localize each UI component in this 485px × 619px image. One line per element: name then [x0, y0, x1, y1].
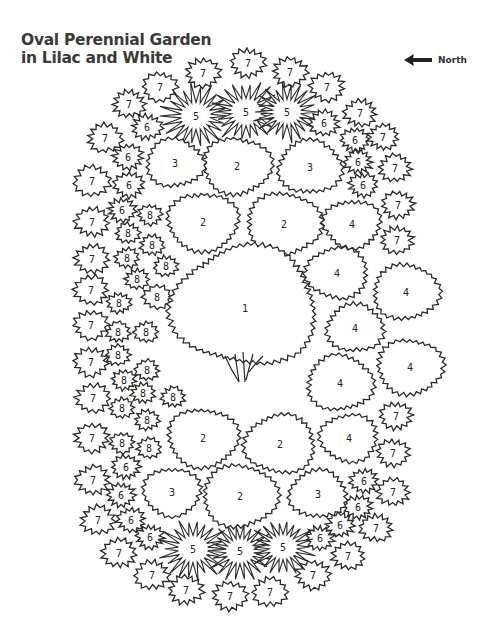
plant-number-label: 8 [154, 292, 160, 303]
plant-7: 7 [376, 439, 410, 468]
plant-6: 6 [111, 144, 143, 171]
plant-number-label: 6 [361, 476, 367, 487]
plant-3: 3 [142, 469, 203, 519]
plant-number-label: 7 [373, 523, 379, 534]
plant-number-label: 8 [121, 375, 127, 386]
plant-number-label: 8 [143, 327, 149, 338]
plant-6: 6 [343, 149, 373, 174]
plant-8: 8 [114, 247, 140, 269]
plant-8: 8 [107, 293, 133, 314]
garden-plan: 8888888888888888888666666666666666677777… [0, 0, 485, 619]
plant-number-label: 8 [119, 403, 125, 414]
plant-number-label: 1 [242, 303, 248, 314]
plant-4: 4 [321, 200, 382, 250]
plant-number-label: 6 [352, 135, 358, 146]
plant-8: 8 [130, 382, 156, 403]
plant-6: 6 [112, 455, 142, 480]
plant-8: 8 [160, 386, 186, 407]
plant-7: 7 [382, 191, 416, 220]
plant-number-label: 7 [102, 133, 108, 144]
plant-number-label: 6 [355, 502, 361, 513]
plant-number-label: 6 [355, 157, 361, 168]
plant-8: 8 [115, 222, 141, 244]
plant-7: 7 [101, 537, 137, 567]
plant-number-label: 2 [200, 433, 206, 444]
plant-number-label: 6 [125, 152, 131, 163]
plant-number-label: 2 [277, 439, 283, 450]
plant-number-label: 8 [125, 228, 131, 239]
plant-7: 7 [273, 57, 310, 88]
plant-number-label: 7 [324, 82, 330, 93]
plant-2: 2 [166, 194, 240, 255]
plant-8: 8 [111, 370, 137, 391]
plant-number-label: 8 [170, 392, 176, 403]
plant-7: 7 [74, 383, 111, 414]
plant-number-label: 8 [116, 298, 122, 309]
plant-6: 6 [116, 508, 146, 533]
plant-number-label: 8 [144, 415, 150, 426]
plant-4: 4 [325, 302, 386, 352]
plant-number-label: 3 [315, 489, 321, 500]
plant-number-label: 3 [307, 162, 313, 173]
plant-number-label: 7 [95, 515, 101, 526]
plant-number-label: 7 [90, 475, 96, 486]
plant-8: 8 [139, 234, 165, 255]
plant-number-label: 8 [163, 261, 169, 272]
plant-number-label: 8 [115, 350, 121, 361]
plant-number-label: 2 [200, 217, 206, 228]
plant-number-label: 8 [124, 253, 130, 264]
plant-number-label: 7 [89, 176, 95, 187]
plant-7: 7 [231, 48, 267, 79]
plant-1: 1 [166, 242, 316, 382]
plant-8: 8 [109, 397, 135, 419]
plant-4: 4 [377, 339, 447, 397]
plant-8: 8 [137, 205, 163, 227]
plant-7: 7 [73, 423, 109, 454]
plant-number-label: 7 [157, 82, 163, 93]
plant-number-label: 7 [357, 108, 363, 119]
plant-2: 2 [203, 137, 275, 197]
plant-number-label: 2 [237, 491, 243, 502]
plant-number-label: 6 [147, 532, 153, 543]
plant-2: 2 [203, 464, 281, 529]
plant-number-label: 2 [281, 219, 287, 230]
plant-3: 3 [277, 138, 345, 193]
plant-7: 7 [73, 311, 110, 341]
plant-8: 8 [109, 433, 135, 455]
plant-number-label: 4 [346, 433, 352, 444]
plant-4: 4 [373, 263, 442, 321]
plant-number-label: 6 [337, 520, 343, 531]
plant-number-label: 7 [89, 217, 95, 228]
plant-7: 7 [73, 347, 109, 377]
plant-number-label: 7 [88, 357, 94, 368]
plant-number-label: 7 [149, 570, 155, 581]
plant-number-label: 7 [126, 99, 132, 110]
plant-6: 6 [113, 172, 145, 199]
plant-8: 8 [134, 359, 160, 381]
plant-7: 7 [72, 275, 109, 306]
plant-6: 6 [107, 198, 137, 223]
plant-number-label: 8 [115, 327, 121, 338]
plant-number-label: 6 [126, 180, 132, 191]
plant-7: 7 [169, 575, 205, 606]
plant-number-label: 8 [149, 240, 155, 251]
plant-number-label: 7 [200, 68, 206, 79]
plant-number-label: 7 [392, 163, 398, 174]
plant-number-label: 4 [334, 268, 340, 279]
plant-number-label: 4 [403, 287, 409, 298]
plant-number-label: 4 [349, 219, 355, 230]
plant-number-label: 8 [144, 365, 150, 376]
plant-6: 6 [348, 173, 378, 198]
plant-number-label: 5 [243, 107, 249, 118]
plant-number-label: 7 [390, 448, 396, 459]
plant-outline [166, 242, 316, 365]
plant-number-label: 8 [119, 438, 125, 449]
plant-number-label: 7 [183, 585, 189, 596]
plant-number-label: 7 [267, 587, 273, 598]
plant-8: 8 [141, 285, 171, 310]
plant-8: 8 [154, 255, 179, 277]
plant-7: 7 [80, 504, 117, 534]
plant-6: 6 [349, 469, 379, 494]
plant-number-label: 7 [245, 58, 251, 69]
plant-7: 7 [308, 73, 344, 103]
